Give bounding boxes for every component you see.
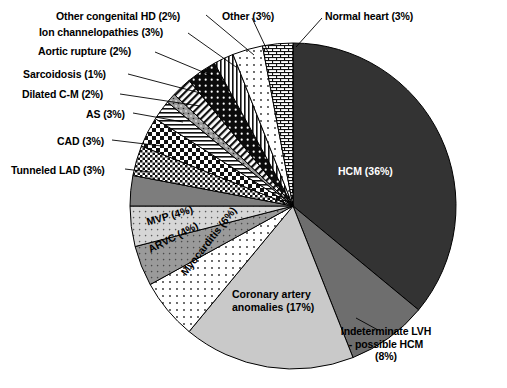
indeterminate-lvh-label: Indeterminate LVH - possible HCM (8%): [318, 325, 454, 363]
indeterminate-lvh-line2: - possible HCM: [318, 338, 454, 351]
slice-label-ion-channelopathies: Ion channelopathies (3%): [39, 26, 163, 39]
pie-chart-figure: Other congenital HD (2%)Ion channelopath…: [0, 0, 507, 388]
leader-normal-heart: [296, 18, 322, 47]
slice-label-aortic-rupture: Aortic rupture (2%): [38, 45, 131, 58]
slice-label-sarcoidosis: Sarcoidosis (1%): [23, 68, 106, 81]
leader-ion-channelopathies: [188, 33, 236, 67]
slice-label-hcm: HCM (36%): [338, 165, 393, 178]
slice-label-other-congenital-hd: Other congenital HD (2%): [56, 10, 180, 23]
slice-label-coronary-artery-anomalies-line2: anomalies (17%): [232, 301, 314, 314]
slice-label-other: Other (3%): [222, 10, 274, 23]
slice-label-dilated-cm: Dilated C-M (2%): [22, 88, 103, 101]
indeterminate-lvh-line3: (8%): [318, 350, 454, 363]
slice-label-cad: CAD (3%): [57, 135, 104, 148]
slice-label-tunneled-lad: Tunneled LAD (3%): [11, 164, 105, 177]
slice-label-as: AS (3%): [86, 108, 125, 121]
slice-label-normal-heart: Normal heart (3%): [325, 10, 413, 23]
slice-label-coronary-artery-anomalies-line1: Coronary artery: [232, 288, 311, 301]
indeterminate-lvh-line1: Indeterminate LVH: [318, 325, 454, 338]
